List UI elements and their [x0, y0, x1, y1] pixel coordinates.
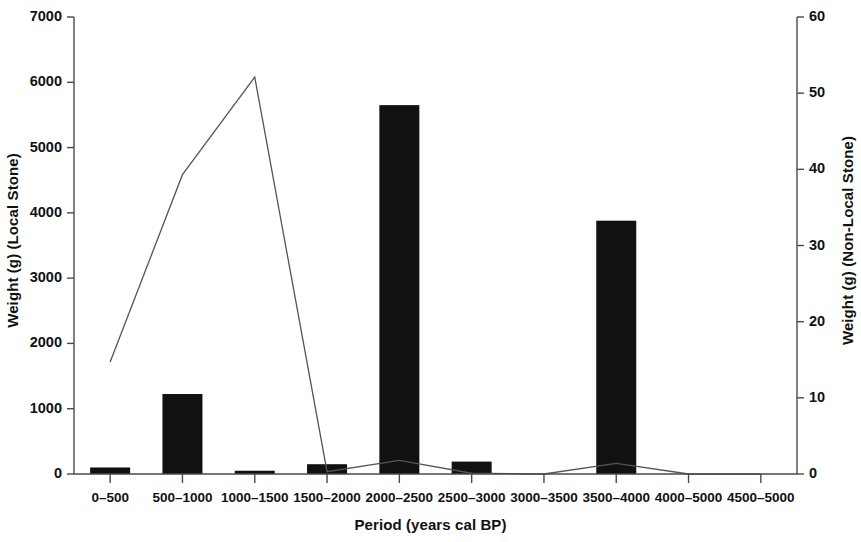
bar-500-1000 [162, 394, 202, 474]
y-axis-left-tick-label: 7000 [0, 8, 62, 24]
y-axis-right-tick-label: 50 [809, 84, 849, 100]
bar-0-500 [90, 467, 130, 474]
bar-2000-2500 [379, 105, 419, 474]
y-axis-left-tick-label: 3000 [0, 269, 62, 285]
bar-2500-3000 [452, 462, 492, 474]
x-axis-tick-label: 3500–4000 [576, 490, 656, 505]
plot-area [0, 0, 861, 542]
y-axis-right-tick-label: 0 [809, 465, 849, 481]
line-non-local-stone [110, 77, 761, 474]
y-axis-left-tick-label: 2000 [0, 334, 62, 350]
x-axis-tick-label: 1500–2000 [287, 490, 367, 505]
x-axis-tick-label: 1000–1500 [215, 490, 295, 505]
bar-series [90, 105, 636, 474]
y-axis-right-tick-label: 10 [809, 389, 849, 405]
x-axis-tick-label: 3000–3500 [504, 490, 584, 505]
y-axis-right-tick-label: 30 [809, 237, 849, 253]
x-axis-tick-label: 0–500 [70, 490, 150, 505]
y-axis-left-tick-label: 1000 [0, 400, 62, 416]
x-axis-tick-label: 2000–2500 [359, 490, 439, 505]
line-series [110, 77, 761, 474]
x-axis-tick-label: 2500–3000 [432, 490, 512, 505]
x-axis-tick-label: 4500–5000 [721, 490, 801, 505]
y-axis-right-tick-label: 60 [809, 8, 849, 24]
chart-figure: Weight (g) (Local Stone) Weight (g) (Non… [0, 0, 861, 542]
bar-3500-4000 [596, 221, 636, 474]
x-axis-tick-label: 4000–5000 [648, 490, 728, 505]
y-axis-left-tick-label: 4000 [0, 204, 62, 220]
y-axis-left-tick-label: 0 [0, 465, 62, 481]
y-axis-right-tick-label: 40 [809, 160, 849, 176]
x-axis-tick-label: 500–1000 [142, 490, 222, 505]
y-axis-left-tick-label: 5000 [0, 139, 62, 155]
y-axis-right-tick-label: 20 [809, 313, 849, 329]
y-axis-left-tick-label: 6000 [0, 73, 62, 89]
